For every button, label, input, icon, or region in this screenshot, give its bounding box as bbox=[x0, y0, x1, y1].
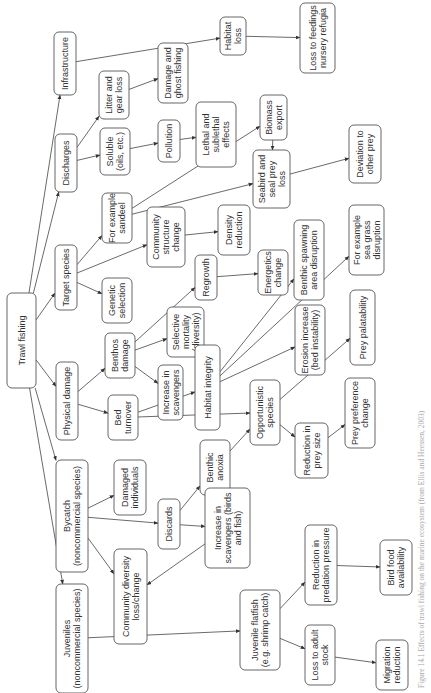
edge-arrow bbox=[35, 388, 56, 460]
edge-arrow bbox=[185, 232, 218, 235]
node-soluble: Soluble(oils, etc.) bbox=[100, 128, 130, 175]
node-habitat-loss: Habitatloss bbox=[220, 17, 246, 55]
node-bycatch: Bycatch(noncommercial species) bbox=[56, 460, 88, 572]
node-habitat-int: Habitat integrity bbox=[195, 345, 220, 430]
edge-arrow bbox=[77, 245, 147, 273]
node-juveniles: Juveniles(noncommercial species) bbox=[56, 584, 88, 693]
node-label: Benthosdamage bbox=[110, 338, 130, 372]
edge-arrow bbox=[130, 143, 158, 148]
node-lethal: Lethal andsublethaleffects bbox=[196, 102, 236, 167]
edge-arrow bbox=[180, 486, 200, 511]
node-opportunistic: Opportunisticspecies bbox=[250, 380, 280, 445]
edge-arrow bbox=[77, 282, 102, 293]
node-label: Loss to feedingsnursery refugia bbox=[308, 5, 328, 71]
node-infrastructure: Infrastructure bbox=[54, 32, 76, 95]
node-flatfish: Juvenile flatfish(e.g. shrimp catch) bbox=[240, 590, 280, 670]
node-nursery: Loss to feedingsnursery refugia bbox=[300, 3, 335, 73]
node-label: Densityreduction bbox=[224, 211, 244, 248]
node-label: Habitat integrity bbox=[203, 356, 213, 419]
node-discharges: Discharges bbox=[55, 134, 77, 192]
node-label: Target species bbox=[61, 248, 71, 307]
node-label: Discharges bbox=[61, 140, 71, 186]
node-label: Soluble(oils, etc.) bbox=[105, 132, 125, 171]
node-physical: Physical damage bbox=[56, 362, 78, 440]
node-label: Pollution bbox=[164, 124, 174, 159]
node-label: Migrationreduction bbox=[382, 646, 402, 683]
edge-arrow bbox=[77, 155, 100, 160]
edge-arrow bbox=[88, 495, 114, 508]
node-label: Benthicanoxia bbox=[205, 452, 225, 483]
node-seabird: Seabird andseal preyloss bbox=[253, 150, 290, 208]
node-label: Discards bbox=[164, 506, 174, 542]
node-label: Selectivemortality(diversity) bbox=[171, 312, 201, 351]
node-label: Biomassexport bbox=[264, 100, 284, 135]
node-community-div: Community diversityloss/change bbox=[114, 549, 147, 644]
edge-arrow bbox=[129, 79, 158, 90]
edge-arrow bbox=[36, 360, 56, 387]
node-density: Densityreduction bbox=[218, 205, 250, 255]
node-label: Damagedindividuals bbox=[120, 466, 140, 509]
node-adult: Loss to adultstock bbox=[305, 625, 335, 685]
edge-arrow bbox=[76, 38, 220, 62]
node-preference: Prey preferencechange bbox=[345, 378, 375, 448]
node-label: Damage andghost fishing bbox=[163, 47, 183, 99]
node-benthos: Benthosdamage bbox=[105, 333, 135, 378]
edge-arrow bbox=[280, 582, 305, 609]
edge-arrow bbox=[180, 137, 196, 139]
node-label: Regrowth bbox=[201, 258, 211, 297]
edge-arrow bbox=[337, 566, 380, 567]
edge-arrow bbox=[135, 339, 167, 350]
edge-arrow bbox=[77, 116, 99, 147]
node-regrowth: Regrowth bbox=[195, 255, 217, 300]
edge-arrow bbox=[88, 517, 158, 523]
node-label: Geneticselection bbox=[107, 283, 127, 319]
edge-arrow bbox=[78, 404, 108, 413]
node-label: Litter andgear loss bbox=[104, 76, 124, 114]
edge-arrow bbox=[328, 425, 345, 438]
edge-arrow bbox=[88, 538, 114, 574]
node-trawl: Trawl fishing bbox=[7, 293, 36, 388]
node-discards: Discards bbox=[158, 499, 180, 549]
edge-arrow bbox=[335, 657, 376, 663]
edge-arrow bbox=[290, 158, 349, 174]
node-litter: Litter andgear loss bbox=[99, 71, 129, 119]
node-prey-size: Reduction inprey size bbox=[295, 423, 328, 478]
edge-arrow bbox=[138, 413, 250, 417]
node-anoxia: Benthicanoxia bbox=[200, 440, 230, 495]
node-community-struct: Communitystructurechange bbox=[147, 207, 185, 267]
node-label: Bird foodavailability bbox=[386, 546, 406, 588]
trawl-fishing-effects-diagram: Trawl fishingInfrastructureDischargesTar… bbox=[0, 0, 431, 693]
node-damaged: Damagedindividuals bbox=[114, 460, 146, 515]
node-label: Erosion increase(bed instability) bbox=[300, 306, 320, 373]
node-seagrass: For examplesea grassdisruption bbox=[349, 205, 384, 275]
edge-arrow bbox=[217, 274, 258, 277]
node-scavengers: Increase inscavengers bbox=[158, 365, 183, 420]
node-label: Deviation toother prey bbox=[355, 130, 375, 178]
edge-arrow bbox=[280, 425, 295, 437]
node-pollution: Pollution bbox=[158, 120, 180, 162]
node-bed: Bedturnover bbox=[108, 395, 138, 440]
node-deviation: Deviation toother prey bbox=[349, 125, 381, 183]
node-birdfood: Bird foodavailability bbox=[380, 540, 412, 595]
node-ghost: Damage andghost fishing bbox=[158, 43, 188, 103]
edge-arrow bbox=[135, 366, 158, 383]
node-energetics: Energeticschange bbox=[258, 250, 288, 295]
node-label: Benthic spawningarea disruption bbox=[299, 225, 319, 296]
edge-arrow bbox=[220, 347, 295, 382]
edge-arrow bbox=[246, 36, 300, 37]
node-label: Prey palatability bbox=[358, 295, 368, 359]
node-target: Target species bbox=[55, 245, 77, 310]
node-migration: Migrationreduction bbox=[376, 640, 408, 690]
edge-arrow bbox=[180, 525, 205, 527]
edge-arrow bbox=[280, 638, 305, 648]
node-predation: Reduction inpredation pressure bbox=[305, 525, 337, 605]
node-genetic: Geneticselection bbox=[102, 278, 132, 323]
edge-arrow bbox=[147, 544, 205, 585]
node-label: Infrastructure bbox=[60, 37, 70, 90]
figure-caption: Figure 14.1 Effects of trawl fishing on … bbox=[417, 410, 426, 688]
node-erosion: Erosion increase(bed instability) bbox=[295, 305, 325, 375]
node-label: Reduction inprey size bbox=[302, 425, 322, 475]
edge-arrow bbox=[78, 368, 105, 391]
edge-arrow bbox=[88, 631, 240, 638]
node-label: For examplesea grassdisruption bbox=[352, 215, 382, 265]
